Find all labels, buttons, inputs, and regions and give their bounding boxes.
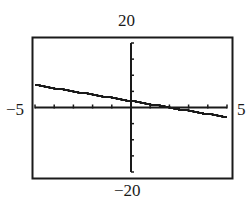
axes: [35, 43, 227, 172]
graph-window: [0, 0, 248, 200]
